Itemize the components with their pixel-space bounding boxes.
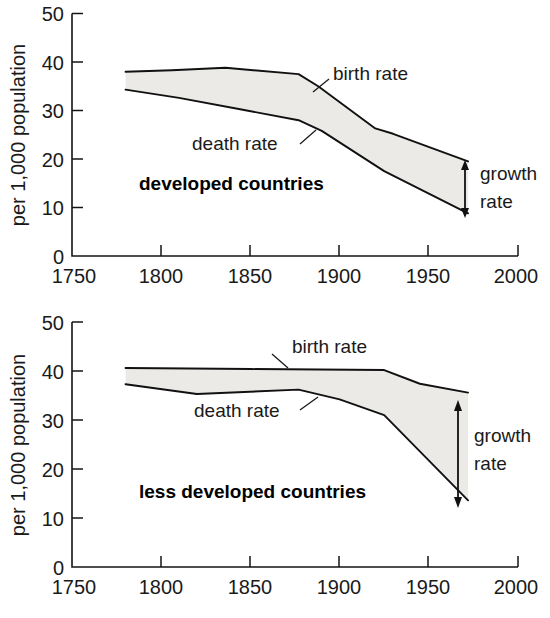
- y-tick-label: 50: [42, 312, 64, 334]
- chart-svg-less-developed-countries: 50 40 30 20 10 0 1750 1800 1850 1900 195…: [0, 300, 550, 618]
- x-tick-label: 1800: [139, 265, 184, 287]
- y-tick-label: 50: [42, 3, 64, 25]
- y-tick-label: 40: [42, 52, 64, 74]
- growth-rate-label-line1: growthrate: [474, 425, 531, 474]
- y-tick-label: 10: [42, 508, 64, 530]
- y-axis-title: per 1,000 population: [7, 354, 29, 536]
- x-tick-label: 2000: [494, 576, 539, 598]
- axis-lines: [72, 14, 518, 257]
- x-tick-label: 1850: [228, 265, 273, 287]
- panel-title-less-developed-countries: less developed countries: [139, 481, 366, 502]
- panel-title-developed-countries: developed countries: [139, 173, 324, 194]
- death-rate-leader-line: [300, 397, 318, 410]
- x-axis-ticks: [161, 556, 518, 567]
- series-label-birth-rate: birth rate: [333, 63, 408, 84]
- series-label-birth-rate: birth rate: [292, 336, 367, 357]
- y-tick-label: 30: [42, 100, 64, 122]
- x-tick-label: 1950: [406, 265, 451, 287]
- x-tick-label: 1800: [139, 576, 184, 598]
- y-axis-ticks: [72, 14, 83, 208]
- y-tick-label: 40: [42, 361, 64, 383]
- x-tick-label: 1950: [406, 576, 451, 598]
- birth-rate-leader-line: [272, 354, 288, 368]
- x-tick-label: 1900: [317, 576, 362, 598]
- demographic-transition-figure: 50 40 30 20 10 0 1750 1800 1850 1900 195…: [0, 0, 550, 618]
- x-axis-ticks: [161, 245, 518, 256]
- x-tick-label: 1900: [317, 265, 362, 287]
- series-label-death-rate: death rate: [192, 133, 278, 154]
- chart-svg-developed-countries: 50 40 30 20 10 0 1750 1800 1850 1900 195…: [0, 0, 550, 300]
- y-tick-label: 20: [42, 459, 64, 481]
- y-axis-ticks: [72, 322, 83, 518]
- y-tick-label: 30: [42, 410, 64, 432]
- x-tick-label: 1750: [52, 576, 97, 598]
- y-axis-title: per 1,000 population: [7, 44, 29, 226]
- x-tick-label: 1850: [228, 576, 273, 598]
- y-tick-label: 20: [42, 149, 64, 171]
- chart-panel-less-developed-countries: 50 40 30 20 10 0 1750 1800 1850 1900 195…: [0, 300, 550, 618]
- growth-rate-label-line1: growthrate: [480, 163, 537, 212]
- death-rate-leader-line: [300, 130, 316, 144]
- chart-panel-developed-countries: 50 40 30 20 10 0 1750 1800 1850 1900 195…: [0, 0, 550, 300]
- y-tick-label: 10: [42, 197, 64, 219]
- x-tick-label: 2000: [494, 265, 539, 287]
- x-tick-label: 1750: [52, 265, 97, 287]
- series-label-death-rate: death rate: [194, 400, 280, 421]
